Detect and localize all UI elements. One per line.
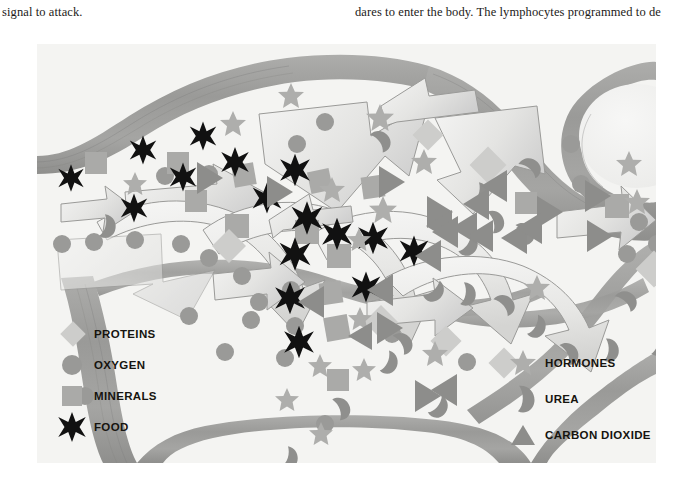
legend-label-hormones: HORMONES [545,357,616,369]
square-icon [57,381,89,411]
legend-row-hormones: HORMONES [508,345,651,381]
particle-oxygen [233,267,251,285]
particle-mineral [327,369,349,391]
nutrients-legend: PROTEINS OXYGEN MINERALS FOOD [57,318,157,442]
legend-row-food: FOOD [57,411,157,442]
particle-oxygen [172,235,190,253]
legend-label-proteins: PROTEINS [94,328,156,340]
legend-label-food: FOOD [94,421,129,433]
particle-oxygen [53,235,71,253]
particle-oxygen [630,213,648,231]
legend-row-urea: UREA [508,381,651,417]
body-text-right-column: dares to enter the body. The lymphocytes… [355,5,661,20]
particle-oxygen [288,135,306,153]
particle-mineral [85,152,107,174]
legend-row-proteins: PROTEINS [57,318,157,349]
asterisk-icon [57,412,89,442]
particle-oxygen [618,245,636,263]
particle-oxygen [180,307,198,325]
legend-label-urea: UREA [545,393,579,405]
particle-oxygen [200,249,218,267]
particle-oxygen [316,113,334,131]
triangle-icon [508,420,540,450]
particle-mineral [185,190,207,212]
legend-label-carbon-dioxide: CARBON DIOXIDE [545,429,651,441]
legend-label-minerals: MINERALS [94,390,157,402]
particle-oxygen [216,343,234,361]
particle-mineral [605,194,629,218]
particle-oxygen [242,311,260,329]
particle-oxygen [562,135,580,153]
wastes-legend: HORMONES UREA CARBON DIOXIDE [508,345,651,453]
particle-oxygen [126,231,144,249]
diamond-icon [57,319,89,349]
star-icon [508,348,540,378]
particle-mineral [515,192,537,214]
circle-icon [57,350,89,380]
particle-mineral [323,314,351,342]
particle-oxygen [458,353,476,371]
legend-row-carbon-dioxide: CARBON DIOXIDE [508,417,651,453]
legend-label-oxygen: OXYGEN [94,359,145,371]
legend-row-oxygen: OXYGEN [57,349,157,380]
body-text-left-column: signal to attack. [2,5,83,20]
legend-row-minerals: MINERALS [57,380,157,411]
particle-mineral [327,244,351,268]
kidney-icon [508,384,540,414]
particle-oxygen [250,293,268,311]
